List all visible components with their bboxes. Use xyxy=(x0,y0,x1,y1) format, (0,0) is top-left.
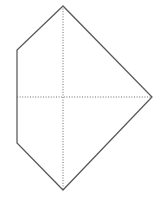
figure-canvas xyxy=(0,0,162,199)
polygon-outline xyxy=(17,6,152,190)
geometry-figure xyxy=(0,0,162,199)
